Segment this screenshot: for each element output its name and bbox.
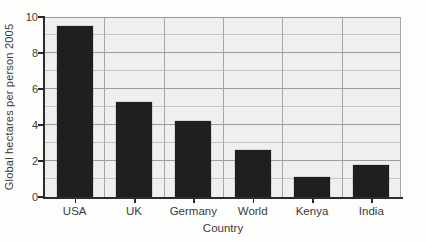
plot-right-border xyxy=(400,17,401,197)
column-separator xyxy=(164,17,165,197)
x-tick-india xyxy=(371,199,373,203)
plot-area xyxy=(45,17,401,197)
bar-chart-figure: Global hectares per person 2005 0246810 … xyxy=(0,0,426,243)
x-tick-kenya xyxy=(312,199,314,203)
y-tick-label-2: 2 xyxy=(8,155,38,167)
category-label-world: World xyxy=(238,205,268,217)
y-axis-line xyxy=(43,16,45,199)
bar-uk xyxy=(116,102,152,197)
bar-india xyxy=(353,165,389,197)
category-label-usa: USA xyxy=(63,205,87,217)
column-separator xyxy=(104,17,105,197)
category-label-india: India xyxy=(359,205,384,217)
y-tick-2 xyxy=(38,160,43,162)
column-separator xyxy=(223,17,224,197)
column-separator xyxy=(342,17,343,197)
bar-usa xyxy=(57,26,93,197)
bar-world xyxy=(235,150,271,197)
y-tick-4 xyxy=(38,124,43,126)
y-tick-label-0: 0 xyxy=(8,191,38,203)
y-tick-10 xyxy=(38,16,43,18)
y-tick-0 xyxy=(38,196,43,198)
y-tick-8 xyxy=(38,52,43,54)
category-label-kenya: Kenya xyxy=(296,205,329,217)
y-tick-label-8: 8 xyxy=(8,47,38,59)
x-tick-germany xyxy=(193,199,195,203)
x-tick-uk xyxy=(134,199,136,203)
y-tick-6 xyxy=(38,88,43,90)
bar-germany xyxy=(175,121,211,197)
category-label-uk: UK xyxy=(126,205,142,217)
x-axis-line xyxy=(43,197,403,199)
bar-kenya xyxy=(294,177,330,197)
y-tick-label-4: 4 xyxy=(8,119,38,131)
category-label-germany: Germany xyxy=(170,205,217,217)
column-separator xyxy=(282,17,283,197)
x-axis-title: Country xyxy=(203,222,243,234)
y-tick-label-6: 6 xyxy=(8,83,38,95)
y-tick-label-10: 10 xyxy=(8,11,38,23)
x-tick-world xyxy=(253,199,255,203)
x-tick-usa xyxy=(75,199,77,203)
